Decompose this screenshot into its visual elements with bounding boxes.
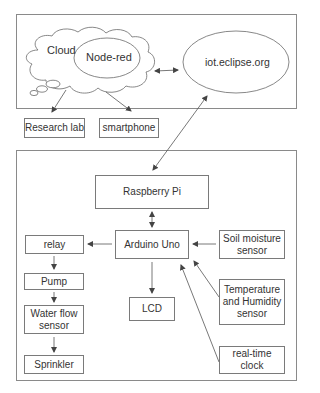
real-time-clock-box: real-time clock (219, 346, 285, 374)
temp-label-line3: sensor (237, 308, 267, 320)
smartphone-label: smartphone (103, 122, 156, 134)
arrow-cloud-smartphone (106, 92, 131, 111)
pump-box: Pump (24, 273, 84, 290)
arrow-iot-raspberry (153, 96, 207, 170)
raspberry-pi-box: Raspberry Pi (95, 175, 209, 209)
arrow-temp-arduino (194, 261, 219, 297)
temp-humidity-sensor-box: Temperature and Humidity sensor (219, 279, 285, 325)
temp-label-line2: and Humidity (223, 296, 281, 308)
relay-label: relay (44, 239, 66, 251)
temp-label-line1: Temperature (224, 284, 280, 296)
lcd-label: LCD (142, 303, 162, 315)
lcd-box: LCD (129, 297, 175, 321)
rtc-label-line1: real-time (233, 348, 272, 360)
thought-bubble-medium (37, 86, 48, 92)
thought-bubble-small (30, 90, 38, 95)
arduino-uno-label: Arduino Uno (124, 239, 180, 251)
arrow-nodered-iot (155, 70, 178, 71)
soil-moisture-sensor-box: Soil moisture sensor (219, 230, 285, 259)
iot-eclipse-label: iot.eclipse.org (205, 56, 270, 68)
water-flow-label-line2: sensor (39, 320, 69, 332)
pump-label: Pump (41, 276, 67, 288)
thought-bubble-large (46, 80, 60, 88)
water-flow-sensor-box: Water flow sensor (24, 305, 84, 334)
node-red-label: Node-red (86, 51, 132, 63)
soil-label-line2: sensor (237, 245, 267, 257)
relay-box: relay (25, 235, 84, 254)
soil-label-line1: Soil moisture (223, 233, 281, 245)
arduino-uno-box: Arduino Uno (115, 230, 189, 259)
raspberry-pi-label: Raspberry Pi (123, 186, 181, 198)
water-flow-label-line1: Water flow (31, 308, 78, 320)
research-lab-label: Research lab (25, 122, 84, 134)
research-lab-box: Research lab (24, 118, 85, 138)
rtc-label-line2: clock (241, 360, 264, 372)
arrow-cloud-research (52, 90, 66, 112)
smartphone-box: smartphone (99, 118, 159, 138)
sprinkler-box: Sprinkler (24, 355, 84, 374)
arrow-rtc-arduino (181, 265, 219, 362)
cloud-label: Cloud (47, 44, 76, 56)
sprinkler-label: Sprinkler (34, 359, 73, 371)
